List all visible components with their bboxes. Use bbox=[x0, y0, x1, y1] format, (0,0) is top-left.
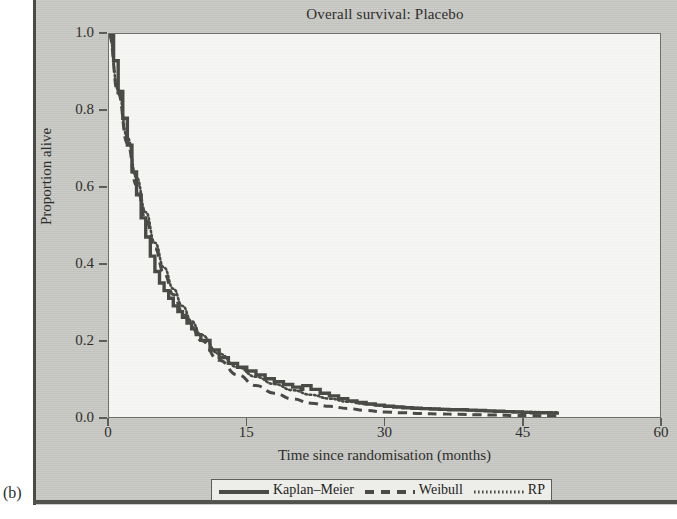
x-tick-label: 45 bbox=[503, 424, 543, 441]
y-tick-mark bbox=[99, 340, 107, 342]
series-line-weibull bbox=[109, 34, 559, 416]
y-tick-mark bbox=[99, 186, 107, 188]
legend-key-weibull bbox=[364, 484, 416, 496]
y-axis-label: Proportion alive bbox=[38, 128, 55, 225]
legend-entry: RP bbox=[473, 482, 545, 498]
y-tick-label: 0.2 bbox=[52, 332, 94, 349]
y-tick-label: 1.0 bbox=[52, 24, 94, 41]
legend-entry: Weibull bbox=[364, 482, 463, 498]
legend-key-rp bbox=[473, 484, 525, 496]
x-tick-label: 30 bbox=[365, 424, 405, 441]
x-axis-label: Time since randomisation (months) bbox=[108, 447, 661, 464]
x-tick-label: 60 bbox=[641, 424, 677, 441]
legend-entry: Kaplan–Meier bbox=[218, 482, 354, 498]
y-tick-mark bbox=[99, 32, 107, 34]
figure-container: Overall survival: Placebo Proportion ali… bbox=[0, 0, 677, 519]
y-tick-mark bbox=[99, 263, 107, 265]
legend-key-kaplan-meier bbox=[218, 484, 270, 496]
y-tick-mark bbox=[99, 417, 107, 419]
y-tick-label: 0.4 bbox=[52, 255, 94, 272]
plot-area bbox=[108, 33, 661, 418]
x-tick-label: 0 bbox=[88, 424, 128, 441]
y-tick-label: 0.8 bbox=[52, 101, 94, 118]
chart-legend: Kaplan–MeierWeibullRP bbox=[211, 479, 552, 501]
panel-letter: (b) bbox=[3, 484, 22, 502]
y-tick-label: 0.6 bbox=[52, 178, 94, 195]
legend-label: Weibull bbox=[419, 482, 463, 498]
series-line-rp bbox=[109, 34, 559, 412]
legend-label: RP bbox=[528, 482, 545, 498]
chart-title: Overall survival: Placebo bbox=[108, 6, 662, 23]
series-line-kaplan-meier bbox=[109, 34, 559, 413]
x-tick-label: 15 bbox=[226, 424, 266, 441]
survival-curves bbox=[109, 34, 660, 417]
legend-label: Kaplan–Meier bbox=[273, 482, 354, 498]
y-tick-mark bbox=[99, 109, 107, 111]
